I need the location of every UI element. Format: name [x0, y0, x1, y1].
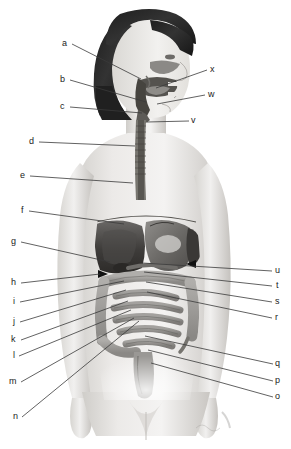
label-n[interactable]: n	[13, 412, 18, 421]
label-p[interactable]: p	[275, 376, 280, 385]
label-r[interactable]: r	[275, 313, 278, 322]
label-x[interactable]: x	[210, 65, 215, 74]
label-j[interactable]: j	[13, 317, 15, 326]
label-f[interactable]: f	[21, 206, 24, 215]
label-e[interactable]: e	[20, 171, 25, 180]
label-u[interactable]: u	[275, 266, 280, 275]
label-g[interactable]: g	[11, 237, 16, 246]
label-t[interactable]: t	[276, 281, 279, 290]
label-o[interactable]: o	[275, 392, 280, 401]
label-b[interactable]: b	[60, 75, 65, 84]
label-v[interactable]: v	[191, 116, 196, 125]
label-i[interactable]: i	[13, 297, 15, 306]
diagram-canvas: abcdefghijklmnopqrstuvwx	[0, 0, 291, 449]
esophagus-trachea	[135, 120, 146, 200]
label-k[interactable]: k	[11, 335, 16, 344]
label-s[interactable]: s	[275, 297, 280, 306]
label-m[interactable]: m	[9, 377, 17, 386]
label-h[interactable]: h	[11, 278, 16, 287]
label-d[interactable]: d	[29, 137, 34, 146]
anatomy-illustration	[0, 0, 291, 449]
label-l[interactable]: l	[13, 351, 15, 360]
label-a[interactable]: a	[62, 39, 67, 48]
label-c[interactable]: c	[60, 102, 65, 111]
label-w[interactable]: w	[208, 90, 215, 99]
label-q[interactable]: q	[275, 359, 280, 368]
